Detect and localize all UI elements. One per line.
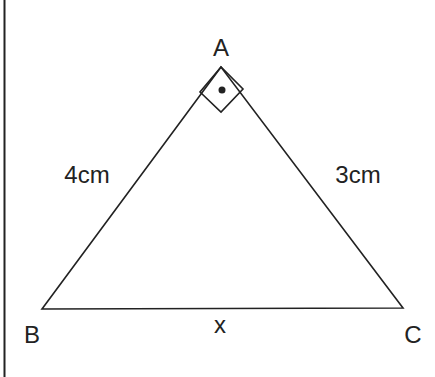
side-label-bc: x: [214, 311, 226, 338]
vertex-label-b: B: [24, 321, 40, 348]
diagram-svg: A B C 4cm 3cm x: [0, 0, 435, 377]
vertex-label-a: A: [213, 34, 229, 61]
side-label-ab: 4cm: [64, 161, 109, 188]
triangle-abc: [42, 67, 403, 309]
right-angle-dot: [219, 87, 226, 94]
side-label-ac: 3cm: [335, 161, 380, 188]
triangle-diagram: A B C 4cm 3cm x: [0, 0, 435, 377]
vertex-label-c: C: [404, 321, 421, 348]
